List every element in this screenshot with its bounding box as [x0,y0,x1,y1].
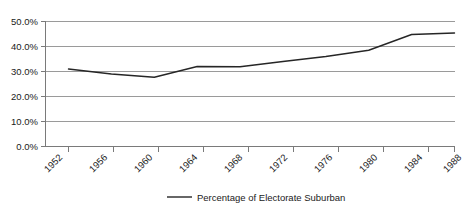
y-tick-label-40: 40.0% [11,41,38,52]
x-tick-label-1956: 1956 [87,152,110,175]
x-tick-label-1980: 1980 [357,152,380,175]
x-tick-label-1984: 1984 [402,152,425,175]
x-tick-label-1964: 1964 [177,152,200,175]
gridlines [45,22,455,122]
chart-container: 50.0% 40.0% 30.0% 20.0% 10.0% 0.0% 1952 … [0,0,470,222]
y-tick-label-30: 30.0% [11,66,38,77]
x-axis: 1952 1956 1960 1964 1968 1972 1976 1980 … [42,147,464,175]
x-tick-label-1976: 1976 [312,152,335,175]
x-tick-label-1952: 1952 [42,152,65,175]
y-axis: 50.0% 40.0% 30.0% 20.0% 10.0% 0.0% [11,16,45,152]
series-line-suburban [69,33,455,77]
y-tick-label-0: 0.0% [16,141,38,152]
series-group [69,33,455,77]
legend-label-suburban: Percentage of Electorate Suburban [197,192,345,203]
y-tick-label-20: 20.0% [11,91,38,102]
x-tick-label-1968: 1968 [222,152,245,175]
x-tick-label-1972: 1972 [267,152,290,175]
y-tick-label-50: 50.0% [11,16,38,27]
y-tick-label-10: 10.0% [11,116,38,127]
x-tick-label-1988: 1988 [441,152,464,175]
legend: Percentage of Electorate Suburban [167,192,345,203]
x-tick-label-1960: 1960 [132,152,155,175]
line-chart: 50.0% 40.0% 30.0% 20.0% 10.0% 0.0% 1952 … [0,0,470,222]
